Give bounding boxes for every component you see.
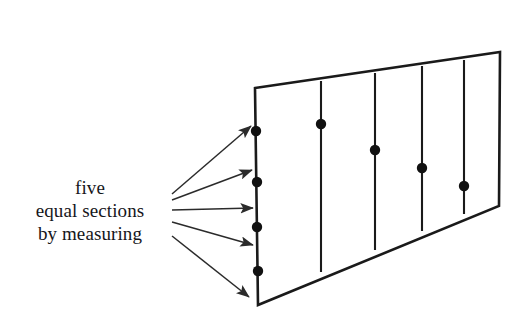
- callout-arrow-5: [172, 236, 249, 297]
- callout-arrow-1: [172, 126, 251, 194]
- caption-line-2: equal sections: [10, 199, 170, 222]
- callout-arrow-4: [172, 222, 253, 245]
- caption-line-1: five: [10, 176, 170, 199]
- near-edge-mark-3: [252, 222, 262, 232]
- callout-arrow-3: [172, 208, 253, 210]
- caption-label: five equal sections by measuring: [10, 176, 170, 246]
- caption-line-3: by measuring: [10, 222, 170, 245]
- near-edge-mark-2: [252, 177, 262, 187]
- divider-dot-2: [370, 145, 380, 155]
- callout-arrow-2: [172, 170, 252, 200]
- divider-dot-3: [417, 163, 427, 173]
- near-edge-mark-1: [251, 126, 261, 136]
- divider-dot-1: [316, 119, 326, 129]
- figure-canvas: five equal sections by measuring: [0, 0, 528, 329]
- divider-dot-4: [459, 181, 469, 191]
- near-edge-mark-4: [253, 266, 263, 276]
- diagram-svg: [0, 0, 528, 329]
- callout-arrows-group: [172, 126, 253, 297]
